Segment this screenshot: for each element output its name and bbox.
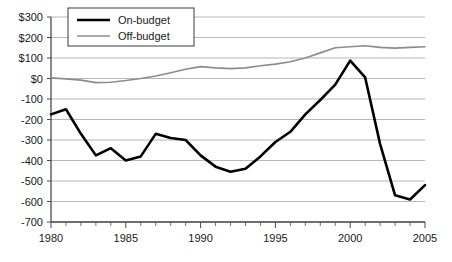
x-axis-label: 2005 (413, 232, 437, 244)
y-axis-label: -200 (21, 114, 43, 126)
x-axis-label: 1995 (263, 232, 287, 244)
x-axis-label: 1990 (188, 232, 212, 244)
y-axis-label: -100 (21, 93, 43, 105)
y-axis-label: $100 (19, 52, 43, 64)
budget-line-chart: $300$200$100$0-100-200-300-400-500-600-7… (0, 0, 452, 262)
x-axis-label: 1980 (39, 232, 63, 244)
legend-label-off-budget: Off-budget (118, 30, 170, 42)
y-axis-label: $200 (19, 32, 43, 44)
gridlines (51, 17, 425, 222)
x-axis-label: 1985 (114, 232, 138, 244)
chart-container: $300$200$100$0-100-200-300-400-500-600-7… (0, 0, 452, 262)
y-axis-label: $0 (31, 73, 43, 85)
y-axis-label: -600 (21, 196, 43, 208)
data-series (51, 46, 425, 200)
tick-marks (47, 17, 425, 228)
series-line-on-budget (51, 61, 425, 200)
y-axis-label: -300 (21, 134, 43, 146)
y-axis-label: -500 (21, 175, 43, 187)
chart-legend: On-budgetOff-budget (68, 8, 194, 46)
y-axis-label: $300 (19, 11, 43, 23)
y-axis-tick-labels: $300$200$100$0-100-200-300-400-500-600-7… (19, 11, 43, 228)
legend-label-on-budget: On-budget (118, 14, 170, 26)
series-line-off-budget (51, 46, 425, 83)
y-axis-label: -700 (21, 216, 43, 228)
y-axis-label: -400 (21, 155, 43, 167)
x-axis-tick-labels: 198019851990199520002005 (39, 232, 437, 244)
x-axis-label: 2000 (338, 232, 362, 244)
